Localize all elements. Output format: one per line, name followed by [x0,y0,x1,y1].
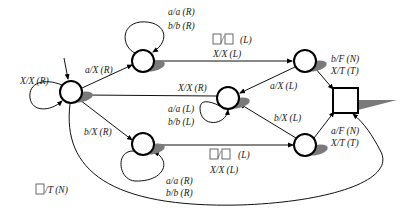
state-q5 [294,134,316,156]
start-arrow [64,58,68,79]
blank-symbol-icon [222,149,230,159]
state-q1 [132,50,154,72]
label-q3-q0: X/X (R) [177,83,207,94]
label-q1-loop-1: a/a (R) [168,7,195,18]
label-q4-q5-2: X/X (L) [209,165,238,176]
label-q2-qf-1: b/F (N) [331,54,359,65]
label-q4-loop-2: b/b (R) [166,188,193,199]
edge-q3-q0 [84,95,216,96]
edge-q1-loop [125,22,164,53]
label-q3-loop-1: a/a (L) [168,104,194,115]
label-q4-q5-move: (L) [238,150,250,161]
label-q0-qf: /T (N) [44,185,68,196]
label-q0-loop: X/X (R) [19,76,49,87]
state-q2 [294,50,316,72]
blank-symbol-icon [210,149,218,159]
label-q1-loop-2: b/b (R) [168,21,195,32]
blank-symbol-icon [213,34,221,44]
label-slash: / [217,150,222,160]
label-q1-q2-move: (L) [240,35,252,46]
label-q1-q2-2: X/X (L) [212,49,241,60]
blank-symbol-icon [225,34,233,44]
label-q2-q3: a/X (L) [270,81,297,92]
label-q5-qf-1: a/F (N) [331,126,359,137]
label-q2-qf-2: X/T (T) [330,66,359,77]
label-q0-q4: b/X (R) [84,127,112,138]
state-final [333,88,358,113]
blank-symbol-icon [36,184,44,194]
label-q3-loop-2: b/b (L) [168,117,194,128]
label-q4-loop-1: a/a (R) [166,176,193,187]
label-q0-q1: a/X (R) [85,65,113,76]
state-q0-start [60,81,82,103]
label-slash: / [220,35,225,45]
state-q3 [217,87,239,109]
state-q4 [132,133,154,155]
label-q5-qf-2: X/T (T) [330,138,359,149]
label-q5-q3: b/X (L) [274,113,301,124]
state-diagram: X/X (R) a/X (R) a/a (R) b/b (R) / (L) X/… [0,0,415,217]
edges [30,22,383,205]
